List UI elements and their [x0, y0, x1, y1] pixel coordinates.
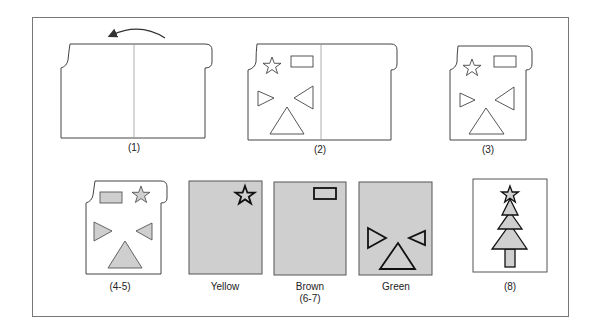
craft-diagram: (1) (2) (3) (4-5) Yellow	[0, 0, 599, 335]
folder-outline	[248, 44, 397, 140]
panel-brown: Brown (6-7)	[274, 182, 346, 304]
rectangle-filled	[100, 192, 122, 203]
panel-green: Green	[359, 182, 432, 292]
panel-label: (1)	[128, 142, 140, 153]
folder-outline	[61, 44, 212, 138]
panel-label: Brown	[296, 281, 324, 292]
panel-sublabel: (6-7)	[299, 293, 320, 304]
panel-label: Green	[382, 281, 410, 292]
panel-step-4-5: (4-5)	[86, 181, 167, 292]
panel-yellow: Yellow	[189, 181, 262, 292]
panel-step-2: (2)	[248, 44, 397, 155]
panel-label: (4-5)	[109, 281, 130, 292]
panel-label: (2)	[314, 144, 326, 155]
folder-half-outline	[450, 46, 532, 140]
panel-label: Yellow	[211, 281, 240, 292]
panel-step-8: (8)	[473, 179, 547, 292]
panel-label: (8)	[504, 281, 516, 292]
panel-step-1: (1)	[61, 29, 212, 153]
panel-label: (3)	[482, 144, 494, 155]
panel-step-3: (3)	[450, 46, 532, 155]
arrow-icon	[112, 29, 165, 38]
tree-trunk	[505, 249, 515, 267]
